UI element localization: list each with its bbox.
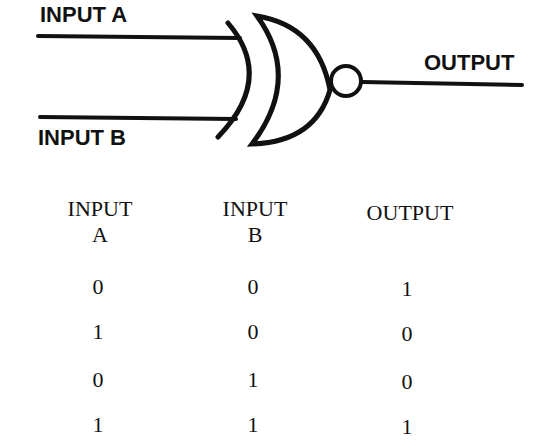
header-input-a-line1: INPUT	[55, 196, 145, 222]
table-cell-r0-out: 1	[387, 276, 427, 302]
header-input-a-line2: A	[55, 222, 145, 248]
table-cell-r3-out: 1	[387, 414, 427, 440]
input-b-label: INPUT B	[38, 125, 126, 151]
table-cell-r1-a: 1	[78, 319, 118, 345]
header-output: OUTPUT	[350, 200, 470, 226]
table-cell-r3-b: 1	[233, 412, 273, 438]
table-cell-r2-b: 1	[233, 367, 273, 393]
header-input-b-line1: INPUT	[210, 196, 300, 222]
header-output-line1: OUTPUT	[350, 200, 470, 226]
table-cell-r0-b: 0	[233, 274, 273, 300]
table-cell-r1-b: 0	[233, 319, 273, 345]
header-input-b-line2: B	[210, 222, 300, 248]
header-input-a: INPUT A	[55, 196, 145, 248]
input-b-wire	[40, 117, 236, 119]
table-cell-r2-out: 0	[387, 369, 427, 395]
gate-body	[252, 16, 330, 144]
table-cell-r1-out: 0	[387, 321, 427, 347]
output-label: OUTPUT	[424, 50, 514, 76]
header-input-b: INPUT B	[210, 196, 300, 248]
inversion-bubble-icon	[331, 66, 361, 96]
input-a-label: INPUT A	[40, 2, 127, 28]
table-cell-r2-a: 0	[78, 367, 118, 393]
table-cell-r0-a: 0	[78, 274, 118, 300]
output-wire	[362, 82, 522, 85]
table-cell-r3-a: 1	[78, 412, 118, 438]
input-a-wire	[38, 36, 240, 38]
